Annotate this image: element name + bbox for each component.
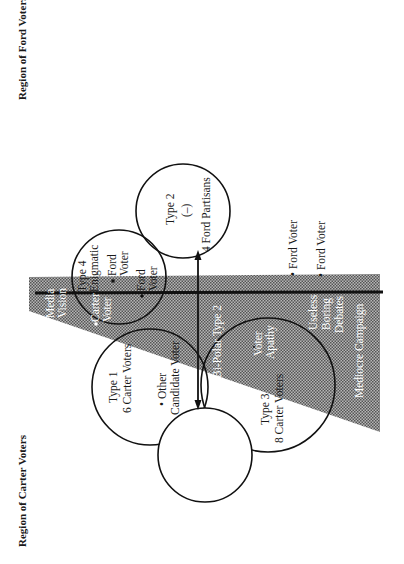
type4-carter-a: Carter — [89, 293, 101, 322]
type3-apathy-b: Apathy — [264, 325, 277, 359]
boring-label: Boring — [320, 298, 333, 330]
media-label: Media — [44, 289, 56, 318]
ford-voter-point-2 — [140, 294, 144, 298]
type3-title: Type 3 — [259, 393, 272, 425]
type3-count: 8 Carter Voters — [273, 373, 285, 443]
ford-voter-point-1 — [111, 279, 115, 283]
region-carter-label: Region of Carter Voters — [16, 434, 28, 547]
vision-label: Vision — [56, 288, 68, 318]
bipolar-type2-label: Bi-Polar Type 2 — [211, 305, 224, 378]
mediocre-campaign-label: Mediocre Campaign — [353, 304, 366, 398]
type4-point1-b: Voter — [118, 251, 130, 276]
type4-point2-a: Ford — [135, 269, 147, 291]
type2-minus-count: 4 Ford Partisans — [200, 177, 212, 252]
type3-apathy-a: Voter — [252, 331, 264, 356]
other-candidate-a: • Other — [156, 373, 168, 406]
debates-label: Debates — [333, 295, 345, 333]
type1-count: 6 Carter Voters — [121, 343, 133, 413]
type1-title: Type 1 — [107, 371, 120, 403]
useless-label: Useless — [307, 294, 319, 330]
outside-ford-voter-1: • Ford Voter — [287, 220, 299, 276]
outside-ford-voter-2: • Ford Voter — [315, 221, 327, 277]
voter-typology-diagram: Region of Ford Voters Region of Carter V… — [0, 0, 404, 564]
type2-minus-title: Type 2 — [164, 193, 177, 225]
region-ford-label: Region of Ford Voters — [16, 0, 28, 100]
type2-plus-circle — [158, 408, 252, 502]
type4-carter-b: Voter — [101, 297, 113, 322]
other-candidate-b: Candidate Voter — [169, 341, 181, 415]
type4-point2-b: Voter — [147, 266, 159, 291]
type2-minus-sign: (–) — [180, 203, 193, 217]
type4-subtitle: Enigmatic — [88, 245, 101, 292]
type4-point1-a: Ford — [106, 254, 118, 276]
